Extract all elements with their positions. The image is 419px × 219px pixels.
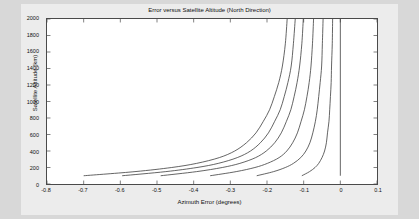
- y-tick-label: 2000: [13, 15, 39, 21]
- x-tick-label: -0.4: [182, 187, 206, 193]
- x-tick-label: -0.8: [34, 187, 58, 193]
- data-line-curve-5: [257, 19, 323, 176]
- x-tick-label: -0.7: [71, 187, 95, 193]
- y-tick-label: 800: [13, 115, 39, 121]
- y-tick-label: 400: [13, 149, 39, 155]
- y-tick-label: 1400: [13, 65, 39, 71]
- x-tick-label: -0.2: [255, 187, 279, 193]
- y-tick-label: 200: [13, 165, 39, 171]
- x-tick-label: 0.1: [366, 187, 390, 193]
- y-tick-label: 1600: [13, 48, 39, 54]
- x-axis-label: Azimuth Error (degrees): [21, 199, 398, 205]
- y-tick-label: 1800: [13, 32, 39, 38]
- x-tick-label: 0: [329, 187, 353, 193]
- x-tick-label: -0.3: [218, 187, 242, 193]
- plot-area: [46, 18, 378, 185]
- x-tick-label: -0.1: [292, 187, 316, 193]
- chart-svg: [47, 19, 377, 184]
- data-line-curve-4: [210, 19, 313, 176]
- y-tick-label: 1000: [13, 99, 39, 105]
- figure-panel: Error versus Satellite Altitude (North D…: [21, 4, 398, 215]
- y-tick-label: 1200: [13, 82, 39, 88]
- x-tick-label: -0.5: [145, 187, 169, 193]
- chart-title: Error versus Satellite Altitude (North D…: [21, 7, 398, 13]
- data-line-curve-2: [122, 19, 295, 176]
- x-tick-label: -0.6: [108, 187, 132, 193]
- y-tick-label: 600: [13, 132, 39, 138]
- data-line-curve-1: [84, 19, 287, 176]
